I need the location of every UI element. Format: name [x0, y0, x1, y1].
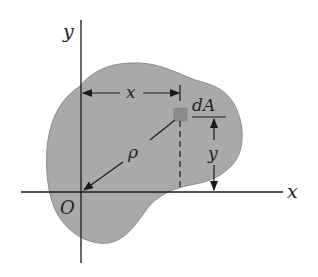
element-label: dA — [192, 95, 215, 115]
x-axis-label: x — [287, 180, 298, 202]
diagram-canvas: y x O dA x y ρ — [0, 0, 318, 277]
element-dA — [174, 108, 187, 121]
area-diagram: y x O dA x y ρ — [0, 0, 318, 277]
y-axis-label: y — [62, 20, 74, 42]
origin-label: O — [60, 197, 75, 218]
y-dim-label: y — [207, 143, 218, 163]
rho-label: ρ — [127, 142, 138, 162]
x-dim-label: x — [126, 82, 136, 102]
